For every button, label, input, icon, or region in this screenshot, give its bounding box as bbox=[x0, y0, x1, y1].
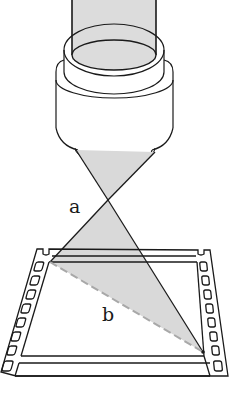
label-a: a bbox=[69, 197, 80, 216]
light-cone-upper bbox=[76, 150, 155, 200]
sprocket-holes-left bbox=[2, 262, 45, 371]
projector-diagram bbox=[0, 0, 235, 397]
label-b: b bbox=[102, 305, 114, 324]
